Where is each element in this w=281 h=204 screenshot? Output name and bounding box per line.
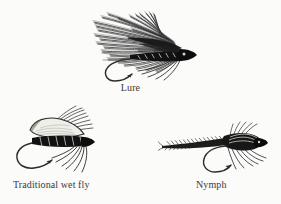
caption-traditional-wet-fly: Traditional wet fly: [13, 179, 90, 191]
traditional-wet-fly-icon: [14, 104, 100, 176]
fly-illustration-plate: Lure: [0, 0, 281, 204]
nymph-fly-icon: [158, 120, 268, 178]
wet-fly-hook: [17, 143, 52, 168]
nymph-hook: [204, 146, 231, 172]
figure-nymph: [158, 120, 268, 178]
figure-traditional-wet-fly: [14, 104, 100, 176]
lure-head: [178, 49, 197, 61]
fishing-lure-icon: [78, 8, 198, 86]
caption-nymph: Nymph: [196, 179, 227, 191]
caption-lure: Lure: [0, 82, 261, 94]
figure-lure: [78, 8, 198, 86]
